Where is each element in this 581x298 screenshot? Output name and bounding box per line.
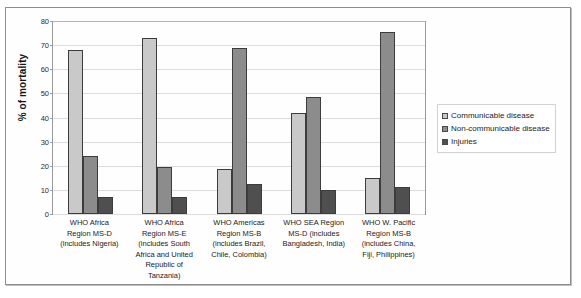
bar-group	[202, 21, 276, 214]
plot-area: 01020304050607080	[52, 21, 426, 215]
bar[interactable]	[247, 184, 262, 214]
category-label-line: WHO Africa	[128, 218, 201, 229]
bar[interactable]	[68, 50, 83, 214]
category-label-line: Republic of	[128, 260, 201, 271]
category-label-line: (includes China,	[352, 239, 425, 250]
y-tick-label: 0	[45, 210, 49, 219]
legend-label: Communicable disease	[451, 111, 534, 120]
bar-group	[276, 21, 350, 214]
bar[interactable]	[306, 97, 321, 214]
bar-group	[351, 21, 425, 214]
bar[interactable]	[142, 38, 157, 214]
bar[interactable]	[232, 48, 247, 214]
category-label-line: MS-D (includes	[277, 229, 350, 240]
bar[interactable]	[395, 187, 410, 214]
category-label-line: Region MS-B	[352, 229, 425, 240]
category-label-line: Africa and United	[128, 250, 201, 261]
y-tick-label: 40	[41, 113, 49, 122]
y-tick-label: 10	[41, 185, 49, 194]
category-label-line: Tanzania)	[128, 271, 201, 282]
legend-label: Non-communicable disease	[451, 124, 550, 133]
legend-item[interactable]: Communicable disease	[442, 109, 550, 122]
legend-swatch-icon	[442, 113, 448, 119]
bars-layer	[53, 21, 425, 214]
bar[interactable]	[217, 169, 232, 214]
y-tick-label: 50	[41, 89, 49, 98]
legend-label: Injuries	[451, 137, 477, 146]
category-label-line: Region MS-D	[53, 229, 126, 240]
category-label-line: WHO Africa	[53, 218, 126, 229]
y-tick-label: 30	[41, 137, 49, 146]
category-label: WHO AmericasRegion MS-B(includes Brazil,…	[202, 218, 277, 281]
bar[interactable]	[98, 197, 113, 214]
y-tick-label: 80	[41, 17, 49, 26]
gridline	[53, 214, 425, 215]
bar[interactable]	[157, 167, 172, 214]
y-tick-label: 20	[41, 161, 49, 170]
legend-item[interactable]: Non-communicable disease	[442, 122, 550, 135]
category-axis-labels: WHO AfricaRegion MS-D(includes Nigeria)W…	[52, 218, 426, 281]
bar-group	[53, 21, 127, 214]
legend-item[interactable]: Injuries	[442, 135, 550, 148]
category-label-line: Fiji, Philippines)	[352, 250, 425, 261]
bar[interactable]	[380, 32, 395, 214]
bar[interactable]	[291, 113, 306, 214]
category-label: WHO SEA RegionMS-D (includesBangladesh, …	[276, 218, 351, 281]
category-label-line: (includes South	[128, 239, 201, 250]
y-axis-title: % of mortality	[17, 28, 28, 148]
legend-swatch-icon	[442, 126, 448, 132]
category-label-line: Chile, Colombia)	[203, 250, 276, 261]
legend-swatch-icon	[442, 139, 448, 145]
category-label: WHO W. PacificRegion MS-B(includes China…	[351, 218, 426, 281]
category-label-line: WHO Americas	[203, 218, 276, 229]
category-label-line: Region MS-E	[128, 229, 201, 240]
y-tick-label: 60	[41, 65, 49, 74]
category-label-line: (includes Brazil,	[203, 239, 276, 250]
chart-frame: % of mortality 01020304050607080 WHO Afr…	[5, 7, 571, 285]
y-tick-mark	[50, 214, 53, 215]
category-label: WHO AfricaRegion MS-D(includes Nigeria)	[52, 218, 127, 281]
y-tick-label: 70	[41, 41, 49, 50]
category-label: WHO AfricaRegion MS-E(includes SouthAfri…	[127, 218, 202, 281]
bar[interactable]	[321, 190, 336, 214]
category-label-line: WHO W. Pacific	[352, 218, 425, 229]
chart-legend: Communicable diseaseNon-communicable dis…	[437, 104, 556, 153]
bar[interactable]	[365, 178, 380, 214]
category-label-line: (includes Nigeria)	[53, 239, 126, 250]
bar[interactable]	[172, 197, 187, 214]
category-label-line: WHO SEA Region	[277, 218, 350, 229]
bar-group	[127, 21, 201, 214]
category-label-line: Bangladesh, India)	[277, 239, 350, 250]
bar[interactable]	[83, 156, 98, 214]
category-label-line: Region MS-B	[203, 229, 276, 240]
